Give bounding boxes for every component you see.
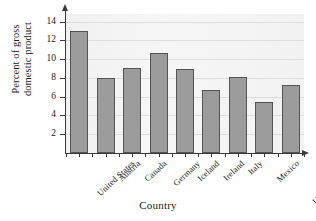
bar [282, 85, 300, 153]
x-axis-line [65, 153, 303, 154]
bar [229, 77, 247, 153]
x-axis-tick [278, 153, 279, 157]
bar [176, 69, 194, 153]
y-axis-tick-label: 10 [16, 54, 56, 64]
x-axis-tick [291, 153, 292, 157]
x-axis-tick [198, 153, 199, 157]
y-axis-tick-label: 12 [16, 35, 56, 45]
x-axis-tick [304, 153, 305, 157]
x-axis-tick [106, 153, 107, 157]
y-axis-tick-label: 2 [16, 129, 56, 139]
bar [202, 90, 220, 153]
x-axis-tick [251, 153, 252, 157]
bar-chart: Percent of gross domestic product 246810… [0, 0, 316, 221]
y-axis-tick-label: 6 [16, 92, 56, 102]
y-axis-tick [60, 97, 66, 98]
y-axis-tick [60, 22, 66, 23]
x-axis-tick [238, 153, 239, 157]
x-axis-category-label: Mexico [276, 159, 302, 184]
x-axis-tick [66, 153, 67, 157]
x-axis-tick [92, 153, 93, 157]
x-axis-tick [159, 153, 160, 157]
x-axis-tick [211, 153, 212, 157]
bar [123, 68, 141, 153]
x-axis-tick [172, 153, 173, 157]
x-axis-category-label: Austria [117, 159, 142, 183]
bar [150, 53, 168, 153]
y-axis-tick [60, 134, 66, 135]
x-axis-category-label: Canada [143, 159, 168, 183]
y-axis-tick [60, 115, 66, 116]
x-axis-tick [132, 153, 133, 157]
y-axis-tick [60, 40, 66, 41]
bar [97, 78, 115, 153]
x-axis-tick [225, 153, 226, 157]
y-axis-arrow-icon [62, 4, 68, 11]
y-axis-line [65, 10, 66, 153]
gridline [66, 22, 304, 23]
bar [255, 102, 273, 153]
bar [70, 31, 88, 153]
x-axis-tick [119, 153, 120, 157]
gridline [66, 40, 304, 41]
y-axis-tick [60, 78, 66, 79]
gridline [66, 59, 304, 60]
y-axis-tick-label: 4 [16, 110, 56, 120]
x-axis-category-label: Italy [246, 159, 264, 176]
y-axis-tick-label: 8 [16, 73, 56, 83]
x-axis-category-label: Ireland [222, 159, 246, 182]
y-axis-tick [60, 59, 66, 60]
x-axis-tick [185, 153, 186, 157]
x-axis-tick [145, 153, 146, 157]
x-axis-tick [79, 153, 80, 157]
y-axis-tick-label: 14 [16, 17, 56, 27]
x-axis-title: Country [0, 199, 316, 211]
x-axis-tick [264, 153, 265, 157]
